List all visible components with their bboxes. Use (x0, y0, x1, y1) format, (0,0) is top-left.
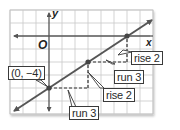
coordinate-graph: y x O (0, −4) rise 2 run 3 rise 2 run 3 (0, 0, 180, 130)
origin-label: O (38, 38, 47, 52)
point-6-0 (124, 33, 129, 38)
y-axis-label: y (52, 7, 58, 19)
callout-run-upper: run 3 (114, 70, 144, 84)
callout-run-lower: run 3 (69, 106, 99, 120)
callout-rise-lower: rise 2 (103, 88, 135, 102)
callout-intercept: (0, −4) (8, 66, 45, 80)
point-3-neg2 (85, 59, 90, 64)
x-axis-label: x (146, 37, 152, 48)
callout-rise-upper: rise 2 (131, 51, 163, 65)
